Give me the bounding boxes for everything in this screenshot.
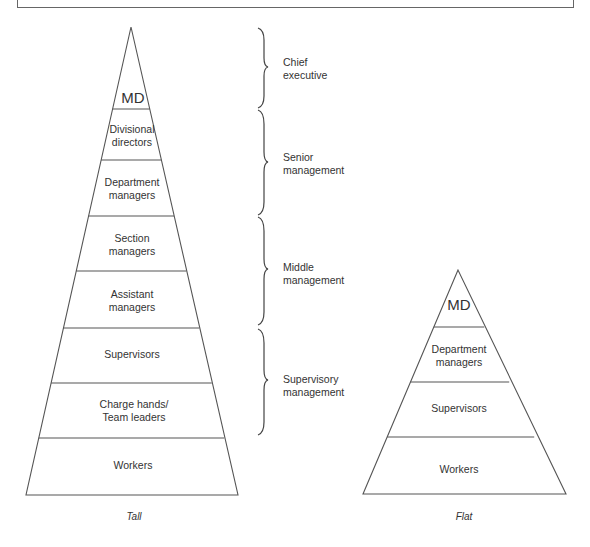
tall-caption: Tall (126, 511, 141, 522)
group-middle-management: Middle management (283, 261, 344, 286)
tall-level-department-managers: Department managers (105, 176, 160, 201)
flat-level-supervisors: Supervisors (431, 402, 486, 415)
management-braces (258, 28, 268, 435)
flat-level-md: MD (447, 297, 470, 313)
group-chief-executive: Chief executive (283, 56, 327, 81)
tall-level-divisional-directors: Divisional directors (110, 123, 155, 148)
brace-supervisory-management-icon (258, 329, 268, 435)
tall-level-supervisors: Supervisors (104, 348, 159, 361)
flat-level-workers: Workers (440, 463, 479, 476)
group-senior-management: Senior management (283, 151, 344, 176)
tall-level-md: MD (121, 90, 144, 106)
flat-level-department-managers: Department managers (432, 343, 487, 368)
brace-senior-management-icon (258, 110, 268, 215)
tall-level-section-managers: Section managers (109, 232, 156, 257)
brace-middle-management-icon (258, 217, 268, 325)
tall-level-charge-hands: Charge hands/ Team leaders (100, 398, 169, 423)
brace-chief-executive-icon (258, 28, 268, 108)
group-supervisory-management: Supervisory management (283, 373, 344, 398)
tall-level-workers: Workers (114, 459, 153, 472)
tall-level-assistant-managers: Assistant managers (109, 288, 156, 313)
flat-caption: Flat (456, 511, 473, 522)
